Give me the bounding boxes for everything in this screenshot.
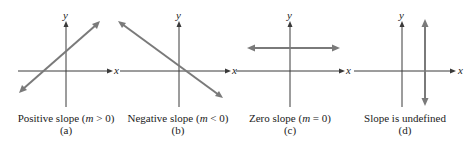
graph-undefined-slope xyxy=(354,0,472,110)
x-axis-label: x xyxy=(458,65,463,76)
line-arrow-start-icon xyxy=(247,45,255,52)
x-axis-arrow-icon xyxy=(107,69,113,74)
y-axis-arrow-icon xyxy=(177,21,182,27)
x-axis-arrow-icon xyxy=(339,69,345,74)
x-axis-label: x xyxy=(346,65,351,76)
y-axis-label: y xyxy=(63,10,68,21)
line-arrow-end-icon xyxy=(422,98,429,106)
line-arrow-start-icon xyxy=(422,19,429,27)
y-axis-arrow-icon xyxy=(64,21,69,27)
line-positive xyxy=(23,25,96,89)
line-negative xyxy=(122,24,219,95)
graph-zero-slope xyxy=(236,0,354,110)
y-axis-arrow-icon xyxy=(288,21,293,27)
graph-positive-slope xyxy=(0,0,118,110)
y-axis-arrow-icon xyxy=(400,21,405,27)
x-axis-arrow-icon xyxy=(225,69,231,74)
y-axis-label: y xyxy=(399,10,404,21)
caption-undefined-slope: Slope is undefined xyxy=(305,113,472,124)
line-arrow-end-icon xyxy=(332,45,340,52)
sublabel-d: (d) xyxy=(305,125,472,136)
y-axis-label: y xyxy=(287,10,292,21)
x-axis-arrow-icon xyxy=(450,69,456,74)
y-axis-label: y xyxy=(176,10,181,21)
slope-types-figure: y x Positive slope (m > 0) (a) y x Negat… xyxy=(0,0,472,142)
panel-undefined-slope: y x Slope is undefined (d) xyxy=(354,0,472,142)
